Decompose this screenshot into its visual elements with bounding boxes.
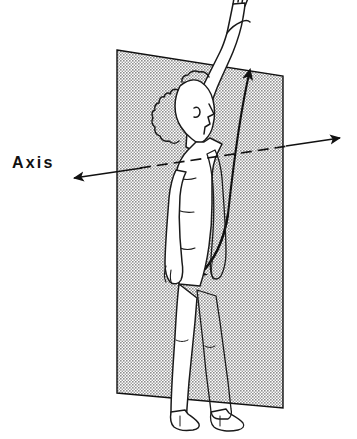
diagram-canvas: Axis — [0, 0, 357, 439]
axis-label: Axis — [12, 152, 55, 174]
feet — [171, 409, 244, 431]
anatomical-diagram-svg — [0, 0, 357, 439]
